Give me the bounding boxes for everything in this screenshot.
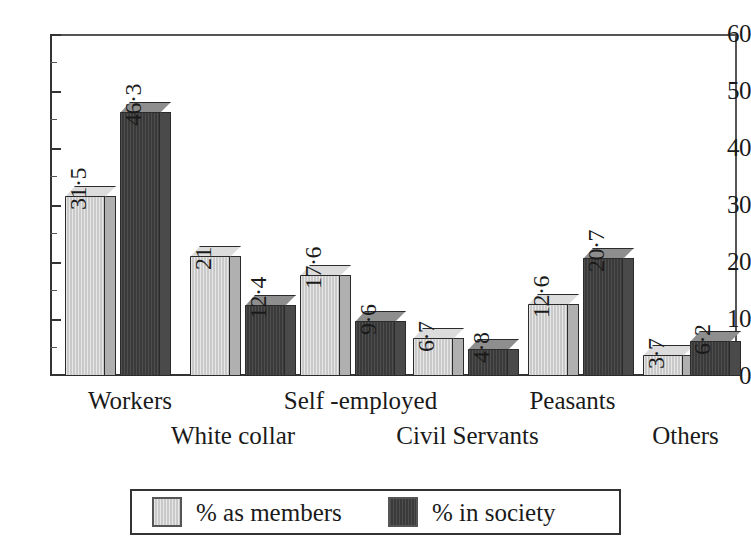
legend-label-members: % as members [196, 500, 342, 525]
bar-front-face [65, 196, 105, 376]
value-label-peasants-society: 20·7 [584, 230, 608, 272]
value-label-workers-society: 46·3 [121, 84, 145, 126]
value-label-peasants-members: 12·6 [529, 276, 553, 318]
legend-label-society: % in society [432, 500, 556, 525]
value-label-white-collar-society: 12·4 [246, 277, 270, 319]
bar-workers-society [120, 112, 160, 376]
bar-side-face [395, 321, 406, 376]
bar-front-face [190, 256, 230, 376]
x-label-others: Others [623, 422, 748, 450]
x-label-civil-servants: Civil Servants [355, 422, 580, 450]
bar-front-face [583, 258, 623, 376]
value-label-self-employed-society: 9·6 [356, 305, 380, 336]
bar-side-face [230, 256, 241, 376]
bar-side-face [105, 196, 116, 376]
bar-side-face [453, 338, 464, 376]
bar-side-face [508, 349, 519, 376]
legend-swatch-light-gray [152, 497, 182, 527]
legend-swatch-dark-gray [388, 497, 418, 527]
bar-side-face [730, 341, 741, 376]
bar-side-face [623, 258, 634, 376]
bar-chart: 60 50 40 30 20 10 0 31·5 46· [0, 0, 751, 543]
legend: % as members % in society [130, 489, 621, 535]
bar-peasants-society [583, 258, 623, 376]
legend-entry-society: % in society [388, 491, 556, 533]
bar-front-face [300, 275, 340, 376]
bar-side-face [160, 112, 171, 376]
value-label-workers-members: 31·5 [66, 168, 90, 210]
value-label-others-society: 6·2 [690, 325, 714, 356]
bar-front-face [120, 112, 160, 376]
value-label-civil-servants-society: 4·8 [469, 333, 493, 364]
value-label-civil-servants-members: 6·7 [414, 322, 438, 353]
x-label-peasants: Peasants [490, 387, 655, 415]
bar-side-face [285, 305, 296, 376]
value-label-others-members: 3·7 [644, 339, 668, 370]
legend-entry-members: % as members [152, 491, 342, 533]
bar-white-collar-members [190, 256, 230, 376]
bars-layer: 31·5 46·3 21 12·4 17·6 [0, 0, 751, 543]
bar-side-face [568, 304, 579, 376]
x-label-workers: Workers [50, 387, 210, 415]
bar-workers-members [65, 196, 105, 376]
value-label-white-collar-members: 21 [191, 247, 215, 270]
bar-self-employed-members [300, 275, 340, 376]
x-label-self-employed: Self -employed [253, 387, 468, 415]
value-label-self-employed-members: 17·6 [301, 247, 325, 289]
bar-side-face [340, 275, 351, 376]
x-label-white-collar: White collar [138, 422, 328, 450]
